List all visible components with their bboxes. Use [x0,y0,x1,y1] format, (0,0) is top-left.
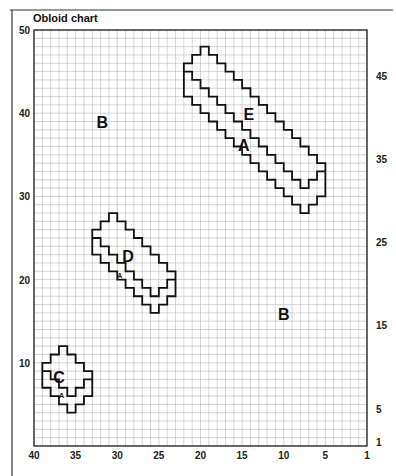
y-axis-right-ticks: 4535251551 [376,71,388,448]
chart-title: Obloid chart [33,12,98,24]
x-tick-label: 10 [278,450,290,461]
x-tick-label: 1 [364,450,370,461]
y-left-tick-label: 30 [19,191,31,202]
region-label-d: D [122,248,134,265]
x-tick-label: 40 [28,450,40,461]
x-tick-label: 25 [153,450,165,461]
y-right-tick-label: 5 [376,404,382,415]
x-tick-label: 15 [237,450,249,461]
region-label-e: E [243,106,254,123]
region-label-b: B [96,114,108,131]
y-left-tick-label: 50 [19,25,31,36]
y-right-tick-label: 35 [376,154,388,165]
y-left-tick-label: 40 [19,108,31,119]
x-tick-label: 30 [112,450,124,461]
y-axis-left-ticks: 5040302010 [19,25,31,369]
x-axis-ticks: 4035302520151051 [28,450,370,461]
region-label-a: A [117,272,122,279]
region-label-a: A [238,137,250,154]
y-right-tick-label: 45 [376,71,388,82]
y-right-tick-label: 15 [376,320,388,331]
x-tick-label: 5 [323,450,329,461]
y-left-tick-label: 20 [19,275,31,286]
x-tick-label: 20 [195,450,207,461]
y-right-tick-label: 25 [376,237,388,248]
region-label-a: A [59,392,64,399]
y-left-tick-label: 10 [19,358,31,369]
region-labels: EABDABCA [53,106,289,399]
region-label-c: C [53,369,65,386]
region-label-b: B [278,306,290,323]
x-tick-label: 35 [70,450,82,461]
y-right-tick-label: 1 [376,437,382,448]
obloid-chart: Obloid chart EABDABCA 4035302520151051 5… [0,0,396,476]
